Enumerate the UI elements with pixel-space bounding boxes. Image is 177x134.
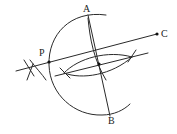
- point-c: [155, 32, 158, 35]
- geometry-diagram: A B C P: [0, 0, 177, 134]
- label-b: B: [108, 115, 115, 126]
- point-p: [47, 60, 50, 63]
- left-x-arc: [30, 60, 46, 80]
- line-pc: [16, 34, 157, 71]
- label-a: A: [83, 3, 91, 14]
- label-p: P: [39, 47, 45, 58]
- point-m: [97, 62, 100, 65]
- label-c: C: [161, 28, 168, 39]
